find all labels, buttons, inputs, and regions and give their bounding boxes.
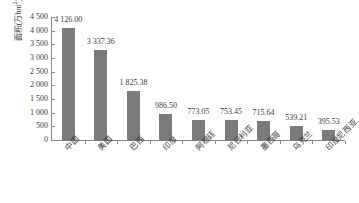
bar-value-label: 1 825.38 <box>103 79 163 87</box>
x-axis-tick-mark <box>182 141 183 144</box>
bar-value-label: 4 126.00 <box>38 16 98 24</box>
y-axis-tick-label: 3 500 <box>30 40 48 48</box>
x-axis-tick-mark <box>345 141 346 144</box>
y-axis-tick-label: 3 000 <box>30 54 48 62</box>
x-axis-tick-mark <box>247 141 248 144</box>
bar <box>94 50 107 141</box>
x-axis-tick-mark <box>150 141 151 144</box>
x-axis-tick-mark <box>215 141 216 144</box>
x-axis-tick-mark <box>312 141 313 144</box>
bar-value-label: 3 337.36 <box>71 38 131 46</box>
y-axis-tick-label: 0 <box>44 136 48 144</box>
x-axis-tick-mark <box>117 141 118 144</box>
y-axis-tick-label: 1 000 <box>30 109 48 117</box>
y-axis-tick-label: 1 500 <box>30 95 48 103</box>
y-axis-tick-labels: 4 5004 0003 5003 0002 5002 0001 5001 000… <box>18 0 50 203</box>
y-axis-tick-label: 2 500 <box>30 68 48 76</box>
y-axis-tick-label: 500 <box>36 122 48 130</box>
y-axis-tick-label: 4 000 <box>30 27 48 35</box>
bar <box>127 91 140 141</box>
y-axis-tick-label: 2 000 <box>30 81 48 89</box>
x-axis-tick-mark <box>280 141 281 144</box>
x-axis-tick-mark <box>85 141 86 144</box>
